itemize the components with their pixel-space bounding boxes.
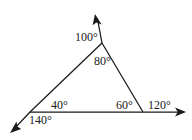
- geometry-figure: 100° 80° 40° 140° 60° 120°: [0, 0, 192, 140]
- angle-label-left-interior: 40°: [51, 99, 68, 111]
- angle-label-apex-interior: 80°: [94, 55, 111, 67]
- angle-label-apex-exterior: 100°: [75, 31, 98, 43]
- angle-label-right-exterior: 120°: [148, 99, 171, 111]
- apex-up-arrowhead-icon: [93, 14, 102, 25]
- angle-label-left-exterior: 140°: [29, 114, 52, 126]
- angle-label-right-interior: 60°: [116, 99, 133, 111]
